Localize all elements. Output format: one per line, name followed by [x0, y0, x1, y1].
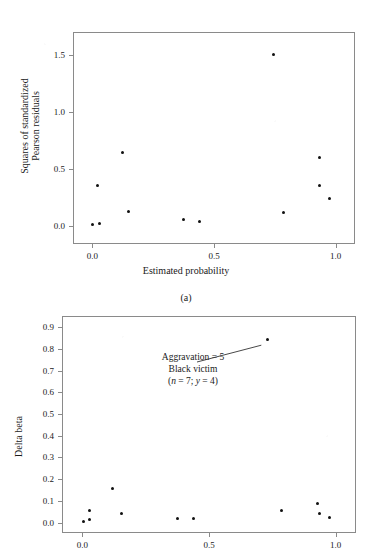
y-tick-mark	[58, 457, 62, 458]
y-tick-mark	[58, 327, 62, 328]
data-point	[282, 211, 285, 214]
data-point	[176, 517, 179, 520]
panel-a: 0.00.51.01.50.00.51.0 Squares of standar…	[0, 0, 372, 305]
y-tick-label: 0.0	[28, 519, 54, 528]
y-tick-label: 0.1	[28, 497, 54, 506]
panel-b-y-axis-title: Delta beta	[13, 402, 24, 472]
y-tick-mark	[58, 436, 62, 437]
data-point	[280, 509, 283, 512]
y-tick-mark	[69, 169, 73, 170]
y-tick-label: 0.8	[28, 345, 54, 354]
panel-a-caption: (a)	[0, 292, 372, 303]
y-tick-label: 0.9	[28, 323, 54, 332]
y-tick-label: 0.3	[28, 453, 54, 462]
y-tick-label: 0.5	[39, 165, 65, 174]
x-tick-mark	[92, 244, 93, 248]
panel-b-annotation: Aggravation = 5 Black victim (n = 7; y =…	[118, 351, 268, 387]
x-tick-label: 0.0	[77, 252, 107, 261]
panel-b: 0.00.10.20.30.40.50.60.70.80.90.00.51.0 …	[0, 305, 372, 552]
panel-b-plot-frame	[62, 316, 356, 533]
y-tick-mark	[69, 226, 73, 227]
panel-a-y-axis-title-line1: Squares of standardized	[19, 78, 30, 174]
x-tick-mark	[336, 533, 337, 537]
x-tick-mark	[82, 533, 83, 537]
y-tick-mark	[58, 349, 62, 350]
y-tick-mark	[58, 392, 62, 393]
data-point	[198, 220, 201, 223]
x-tick-label: 0.0	[67, 541, 97, 550]
y-tick-label: 1.0	[39, 108, 65, 117]
annotation-line-2: Black victim	[118, 363, 268, 375]
y-tick-label: 0.5	[28, 410, 54, 419]
annotation-y-val: = 4)	[200, 376, 218, 386]
annotation-line-1: Aggravation = 5	[118, 351, 268, 363]
y-tick-mark	[58, 479, 62, 480]
y-tick-label: 0.2	[28, 475, 54, 484]
x-tick-mark	[336, 244, 337, 248]
x-tick-label: 1.0	[321, 252, 351, 261]
annotation-n-val: = 7;	[176, 376, 196, 386]
y-tick-label: 0.6	[28, 388, 54, 397]
panel-a-x-axis-title: Estimated probability	[0, 265, 372, 276]
y-tick-mark	[69, 112, 73, 113]
panel-a-plot-frame	[73, 32, 355, 244]
y-tick-mark	[58, 501, 62, 502]
y-tick-label: 1.5	[39, 51, 65, 60]
x-tick-label: 0.5	[199, 252, 229, 261]
panel-a-y-axis-title-line2: Pearson residuals	[30, 91, 41, 161]
y-tick-mark	[58, 414, 62, 415]
y-tick-label: 0.7	[28, 367, 54, 376]
y-tick-mark	[69, 55, 73, 56]
panel-a-y-axis-title: Squares of standardized Pearson residual…	[19, 46, 41, 206]
x-tick-label: 0.5	[194, 541, 224, 550]
y-tick-mark	[58, 371, 62, 372]
y-tick-mark	[58, 523, 62, 524]
data-point	[328, 516, 331, 519]
y-tick-label: 0.0	[39, 222, 65, 231]
x-tick-mark	[209, 533, 210, 537]
y-tick-label: 0.4	[28, 432, 54, 441]
annotation-line-3: (n = 7; y = 4)	[118, 375, 268, 387]
figure-root: 0.00.51.01.50.00.51.0 Squares of standar…	[0, 0, 372, 552]
data-point	[111, 487, 114, 490]
x-tick-label: 1.0	[321, 541, 351, 550]
data-point	[266, 338, 269, 341]
data-point	[82, 520, 85, 523]
x-tick-mark	[214, 244, 215, 248]
